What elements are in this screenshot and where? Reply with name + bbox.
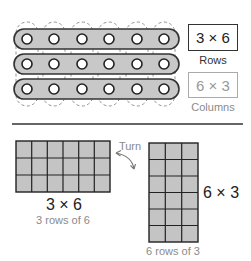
columns-label: Columns bbox=[183, 101, 243, 113]
hole-bars bbox=[14, 22, 179, 106]
right-array-title: 6 × 3 bbox=[203, 184, 239, 202]
left-array-caption: 3 rows of 6 bbox=[23, 214, 103, 226]
columns-box: 6 × 3 bbox=[188, 72, 238, 98]
row-bar-1 bbox=[14, 29, 179, 49]
rows-label: Rows bbox=[188, 54, 238, 66]
left-array-title: 3 × 6 bbox=[44, 196, 84, 214]
row-bar-3 bbox=[14, 79, 179, 99]
turn-arrow-icon bbox=[116, 151, 136, 170]
array-3x6 bbox=[16, 141, 110, 192]
turn-label: Turn bbox=[118, 140, 142, 152]
rows-box: 3 × 6 bbox=[188, 24, 238, 51]
row-bar-2 bbox=[14, 54, 179, 74]
array-6x3 bbox=[149, 143, 198, 242]
right-array-caption: 6 rows of 3 bbox=[133, 245, 213, 257]
